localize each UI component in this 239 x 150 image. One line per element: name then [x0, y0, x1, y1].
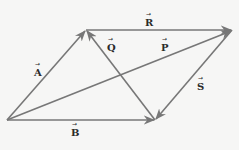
- arrow-accent-icon: →: [198, 74, 203, 81]
- arrow-accent-icon: →: [72, 120, 77, 127]
- arrow-accent-icon: →: [162, 35, 167, 42]
- vector-a: [7, 31, 85, 120]
- vector-q: [87, 31, 155, 120]
- arrow-accent-icon: →: [146, 10, 151, 17]
- label-a: → A: [33, 60, 42, 78]
- label-b: → B: [71, 120, 79, 138]
- arrow-accent-icon: →: [108, 35, 113, 42]
- label-s: → S: [197, 74, 204, 92]
- label-a-text: A: [33, 67, 42, 78]
- label-p-text: P: [161, 42, 169, 53]
- arrow-accent-icon: →: [35, 60, 40, 67]
- label-s-text: S: [197, 81, 204, 92]
- label-p: → P: [161, 35, 169, 53]
- label-r: → R: [145, 10, 154, 28]
- label-q: → Q: [107, 35, 116, 53]
- vector-diagram: → A → Q → R → P → S → B: [0, 0, 239, 150]
- label-q-text: Q: [107, 42, 116, 53]
- label-b-text: B: [71, 127, 79, 138]
- label-r-text: R: [145, 17, 154, 28]
